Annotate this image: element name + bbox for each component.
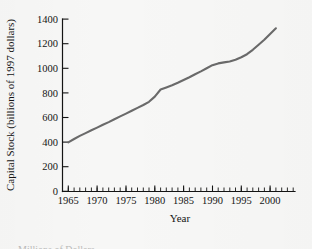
x-tick-label-1985: 1985 [173,195,194,206]
x-tick-label-1970: 1970 [87,195,108,206]
x-tick-label-1980: 1980 [144,195,165,206]
y-tick-label-1400: 1400 [37,14,58,25]
axes-group [63,19,296,192]
y-tick-label-800: 800 [42,88,58,99]
cut-off-caption-line: Millions of Dollars [18,245,188,249]
x-axis-title: Year [170,212,191,224]
x-tick-label-1990: 1990 [202,195,223,206]
capital-stock-line-chart: 1400 1200 1000 800 600 400 200 0 [0,0,312,249]
x-tick-labels: 1965 1970 1975 1980 1985 1990 1995 2000 [58,195,281,206]
x-tick-label-1995: 1995 [231,195,252,206]
y-tick-label-1000: 1000 [37,63,58,74]
x-axis-major-ticks [68,186,270,192]
y-axis-ticks [63,19,69,191]
x-tick-label-2000: 2000 [260,195,281,206]
y-tick-label-600: 600 [42,112,58,123]
capital-stock-series-line [68,28,276,142]
x-tick-label-1965: 1965 [58,195,79,206]
figure-container: 1400 1200 1000 800 600 400 200 0 [0,0,312,249]
x-tick-label-1975: 1975 [116,195,137,206]
y-tick-labels: 1400 1200 1000 800 600 400 200 0 [37,14,58,197]
y-tick-label-1200: 1200 [37,38,58,49]
y-axis-title: Capital Stock (billions of 1997 dollars) [4,19,17,191]
y-tick-label-200: 200 [42,161,58,172]
y-tick-label-400: 400 [42,137,58,148]
